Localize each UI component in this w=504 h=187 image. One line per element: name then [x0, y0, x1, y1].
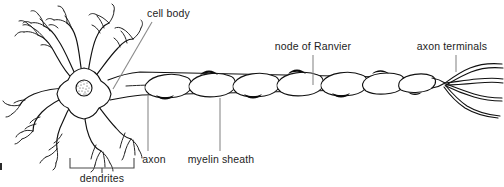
label-axon: axon: [142, 153, 165, 165]
label-axon-terminals: axon terminals: [417, 40, 487, 52]
label-node-of-ranvier: node of Ranvier: [275, 40, 352, 52]
label-dendrites: dendrites: [80, 172, 125, 184]
neuron-illustration: cell body node of Ranvier axon terminals…: [0, 0, 504, 187]
edge-tick: [0, 163, 2, 170]
neuron-diagram: cell body node of Ranvier axon terminals…: [0, 0, 504, 187]
label-cell-body: cell body: [147, 7, 190, 19]
label-myelin-sheath: myelin sheath: [188, 153, 255, 165]
